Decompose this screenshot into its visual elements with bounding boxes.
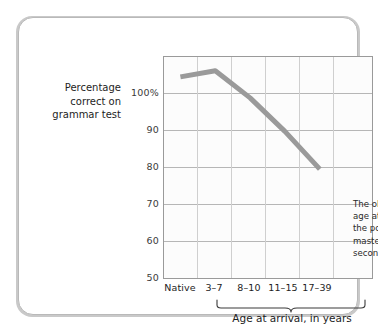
annotation-line-1: The older the [353, 198, 378, 210]
figure-card: Percentage correct on grammar test 100% … [18, 17, 358, 315]
x-tick-label-11-15: 11–15 [268, 282, 297, 293]
y-tick-label-90: 90 [113, 124, 159, 135]
x-tick-label-native: Native [164, 282, 195, 293]
y-axis-title-line-2: correct on [45, 95, 121, 109]
annotation-line-2: age at immigration, [353, 210, 378, 222]
x-axis-title: Age at arrival, in years [199, 312, 378, 324]
y-tick-label-50: 50 [113, 272, 159, 283]
y-tick-label-100: 100% [113, 87, 159, 98]
y-tick-label-70: 70 [113, 198, 159, 209]
y-axis-title-line-3: grammar test [45, 108, 121, 122]
x-axis-tick-labels: Native 3–7 8–10 11–15 17–39 [163, 282, 373, 298]
x-tick-label-3-7: 3–7 [205, 282, 222, 293]
chart-screenshot: Percentage correct on grammar test 100% … [0, 0, 378, 333]
x-axis-line [163, 278, 373, 279]
y-tick-label-60: 60 [113, 235, 159, 246]
x-tick-label-17-39: 17–39 [302, 282, 331, 293]
y-axis-title: Percentage correct on grammar test [45, 81, 121, 122]
x-tick-label-8-10: 8–10 [237, 282, 260, 293]
annotation-line-3: the poorer the [353, 222, 378, 234]
plot-area: The older the age at immigration, the po… [163, 56, 372, 278]
annotation-line-5: second language [353, 247, 378, 259]
data-series-line [163, 56, 372, 278]
chart-annotation: The older the age at immigration, the po… [353, 198, 378, 259]
range-brace-icon [215, 299, 367, 313]
y-axis-title-line-1: Percentage [45, 81, 121, 95]
annotation-line-4: mastery of a [353, 235, 378, 247]
y-axis-tick-labels: 100% 90 80 70 60 50 [111, 18, 159, 333]
y-tick-label-80: 80 [113, 161, 159, 172]
